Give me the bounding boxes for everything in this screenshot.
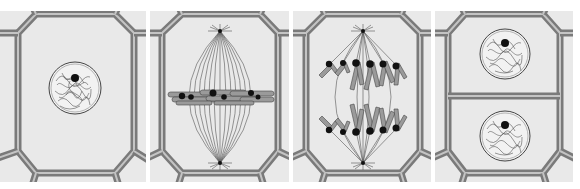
panel-metaphase [150, 11, 289, 182]
nucleolus [71, 74, 79, 82]
daughter-nucleus-top [480, 29, 530, 79]
metaphase-cell-diagram [150, 11, 289, 182]
pole-top [218, 29, 222, 33]
pole-top [361, 29, 365, 33]
interphase-cell-diagram [0, 11, 146, 182]
panel-anaphase [293, 11, 431, 182]
pole-bottom [361, 161, 365, 165]
panel-interphase [0, 11, 146, 182]
metaphase-plate-chromosomes [168, 90, 274, 106]
panel-telophase [435, 11, 573, 182]
daughter-nucleus-bottom [480, 111, 530, 161]
anaphase-cell-diagram [293, 11, 431, 182]
nucleus [49, 62, 101, 114]
telophase-cell-diagram [435, 11, 573, 182]
pole-bottom [218, 161, 222, 165]
spindle-fibers [329, 24, 396, 170]
